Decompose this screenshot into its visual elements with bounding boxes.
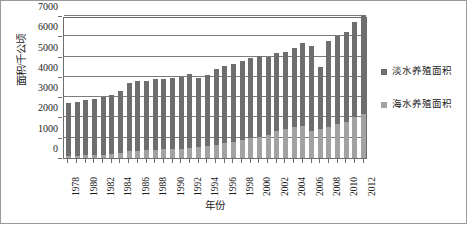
bar-column (361, 15, 366, 158)
bar-segment-freshwater (309, 46, 314, 131)
x-axis-tick-mark (85, 159, 86, 163)
bar-column (292, 48, 297, 158)
bar-column (326, 41, 331, 158)
x-axis-tick-mark (137, 159, 138, 163)
bar-column (352, 22, 357, 158)
x-axis-tick-label: 1988 (158, 177, 168, 196)
x-axis-tick-mark (189, 159, 190, 163)
bar-segment-marine (300, 126, 305, 158)
bar-column (231, 64, 236, 158)
x-axis-tick-mark (363, 159, 364, 163)
bar-segment-marine (257, 137, 262, 159)
x-axis-tick-mark (345, 159, 346, 163)
x-axis-tick-mark (198, 159, 199, 163)
x-axis-tick-mark (258, 159, 259, 163)
bar-segment-marine (361, 114, 366, 158)
bar-segment-freshwater (196, 78, 201, 147)
bar-segment-marine (196, 147, 201, 158)
x-axis-tick-mark (215, 159, 216, 163)
bar-segment-freshwater (187, 74, 192, 148)
x-axis-tick-label: 2004 (297, 177, 307, 196)
x-axis-tick-label: 2006 (315, 177, 325, 196)
bar-segment-freshwater (75, 102, 80, 156)
bar-segment-freshwater (83, 100, 88, 155)
x-axis-tick-mark (146, 159, 147, 163)
bar-segment-marine (283, 129, 288, 158)
x-axis-tick-label: 2000 (262, 177, 272, 196)
x-axis-tick-mark (224, 159, 225, 163)
x-axis-tick-mark (154, 159, 155, 163)
bar-column (83, 100, 88, 158)
bar-segment-freshwater (292, 48, 297, 127)
bar-segment-freshwater (257, 56, 262, 137)
bar-column (153, 79, 158, 158)
bar-segment-freshwater (274, 53, 279, 131)
x-axis-tick-labels: 1978198019821984198619881990199219941996… (63, 164, 367, 198)
bar-column (248, 58, 253, 158)
bar-segment-freshwater (326, 41, 331, 126)
x-axis-tick-label: 1994 (210, 177, 220, 196)
bar-segment-marine (274, 131, 279, 158)
y-axis-tick-label: 7000 (12, 2, 58, 12)
x-axis-tick-label: 2012 (367, 177, 377, 196)
x-axis-tick-mark (119, 159, 120, 163)
bar-segment-marine (292, 127, 297, 158)
y-axis-tick-mark (58, 97, 62, 98)
bar-segment-marine (135, 151, 140, 158)
x-axis-tick-mark (67, 159, 68, 163)
bar-segment-marine (318, 129, 323, 158)
bar-segment-freshwater (344, 32, 349, 121)
x-axis-tick-mark (76, 159, 77, 163)
bar-segment-freshwater (179, 77, 184, 148)
x-axis-tick-mark (284, 159, 285, 163)
x-axis-tick-mark (276, 159, 277, 163)
bar-column (257, 56, 262, 158)
bar-segment-marine (214, 145, 219, 158)
legend-item[interactable]: 海水养殖面积 (381, 99, 467, 110)
bar-column (283, 52, 288, 158)
bar-segment-freshwater (240, 61, 245, 140)
bar-column (135, 81, 140, 158)
bar-segment-marine (326, 127, 331, 158)
x-axis-tick-mark (250, 159, 251, 163)
x-axis-tick-mark (319, 159, 320, 163)
bar-segment-marine (170, 149, 175, 158)
y-axis-tick-mark (58, 117, 62, 118)
aquaculture-area-stacked-bar-chart: 面积/千公顷 01000200030004000500060007000 197… (0, 0, 468, 225)
bar-segment-marine (187, 148, 192, 158)
bar-column (196, 78, 201, 158)
y-axis-tick-marks (0, 17, 64, 159)
bar-segment-freshwater (153, 79, 158, 150)
x-axis-tick-mark (293, 159, 294, 163)
bar-column (92, 99, 97, 158)
bar-segment-marine (92, 155, 97, 158)
x-axis-tick-label: 1990 (176, 177, 186, 196)
x-axis-tick-label: 2010 (349, 177, 359, 196)
x-axis-tick-label: 2008 (332, 177, 342, 196)
bar-segment-freshwater (118, 91, 123, 153)
bar-segment-freshwater (101, 97, 106, 154)
x-axis-tick-label: 1996 (228, 177, 238, 196)
x-axis-tick-mark (102, 159, 103, 163)
chart-legend: 淡水养殖面积海水养殖面积 (381, 66, 467, 132)
bar-segment-freshwater (300, 43, 305, 127)
bar-segment-marine (66, 156, 71, 158)
bar-segment-marine (205, 146, 210, 158)
bar-column (300, 43, 305, 158)
bar-segment-marine (179, 149, 184, 158)
y-axis-tick-mark (58, 138, 62, 139)
bar-segment-freshwater (248, 58, 253, 138)
bar-column (335, 36, 340, 158)
bar-column (214, 69, 219, 158)
bar-segment-freshwater (170, 78, 175, 149)
bar-segment-freshwater (231, 64, 236, 141)
legend-item[interactable]: 淡水养殖面积 (381, 66, 467, 77)
bar-column (144, 81, 149, 158)
bar-segment-freshwater (318, 67, 323, 129)
bar-segment-marine (248, 138, 253, 158)
bar-column (179, 77, 184, 158)
x-axis-tick-label: 1982 (106, 177, 116, 196)
bar-segment-marine (266, 135, 271, 158)
bar-column (101, 97, 106, 158)
bar-column (222, 66, 227, 158)
